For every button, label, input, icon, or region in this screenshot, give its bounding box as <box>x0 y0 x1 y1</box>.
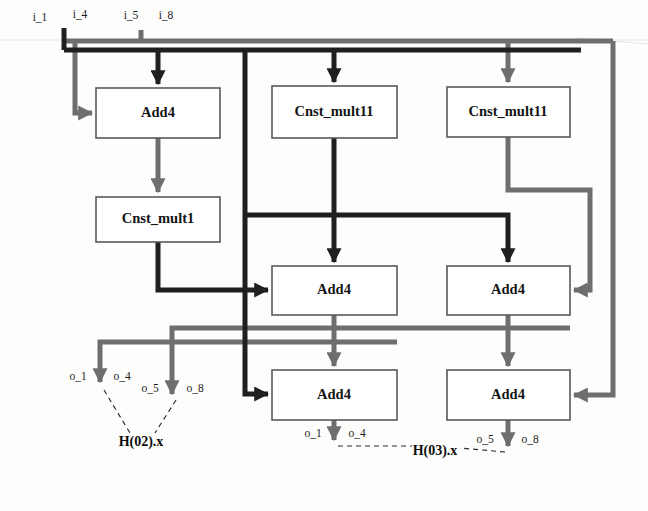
block-label: Add4 <box>317 386 351 402</box>
block-label: Add4 <box>317 281 351 297</box>
wire-right-feedback-to-add4br <box>574 41 613 395</box>
output-label-o1-h03: o_1 <box>304 427 322 439</box>
block-label: Add4 <box>491 386 525 402</box>
block-label: Cnst_mult1 <box>122 210 195 226</box>
output-label-o4-h03: o_4 <box>348 427 366 439</box>
output-label-o8-h02: o_8 <box>186 382 204 394</box>
output-label-o4-h02: o_4 <box>113 370 131 382</box>
block-cnst-mult11-right[interactable]: Cnst_mult11 <box>447 87 570 137</box>
output-label-o5-h03: o_5 <box>476 433 494 445</box>
diagram-canvas: Add4 Cnst_mult1 Cnst_mult11 Cnst_mult11 … <box>0 0 648 511</box>
block-label: Cnst_mult11 <box>469 103 548 119</box>
input-label-i8: i_8 <box>159 9 174 21</box>
output-label-o8-h03: o_8 <box>521 433 539 445</box>
input-label-i5: i_5 <box>124 9 139 21</box>
output-label-o5-h02: o_5 <box>141 382 159 394</box>
wire-cnstmult1-to-add4ml <box>158 242 268 290</box>
dataflow-diagram: Add4 Cnst_mult1 Cnst_mult11 Cnst_mult11 … <box>0 0 648 511</box>
group-label-h02: H(02).x <box>119 434 164 450</box>
wire-spine-branch-to-add4mr <box>245 215 508 262</box>
input-label-i4: i_4 <box>73 8 88 20</box>
block-cnst-mult1[interactable]: Cnst_mult1 <box>96 197 220 242</box>
block-label: Cnst_mult11 <box>295 103 374 119</box>
block-cnst-mult11-middle[interactable]: Cnst_mult11 <box>272 86 397 138</box>
block-label: Add4 <box>141 104 175 120</box>
block-add4-middle-left[interactable]: Add4 <box>272 266 397 315</box>
output-label-o1-h02: o_1 <box>69 370 87 382</box>
block-add4-a[interactable]: Add4 <box>96 88 220 138</box>
input-label-i1: i_1 <box>33 11 48 23</box>
block-add4-middle-right[interactable]: Add4 <box>447 266 570 315</box>
leader-lines-h02 <box>104 390 176 433</box>
group-label-h03: H(03).x <box>413 443 458 459</box>
block-label: Add4 <box>491 281 525 297</box>
block-add4-bottom-left[interactable]: Add4 <box>272 370 397 420</box>
block-add4-bottom-right[interactable]: Add4 <box>447 370 570 420</box>
